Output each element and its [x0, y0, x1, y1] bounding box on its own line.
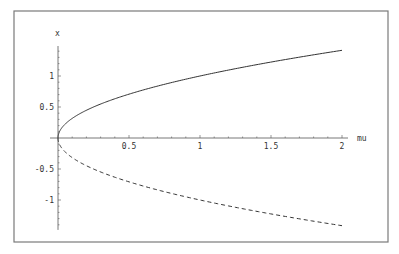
y-tick-label: -1 [44, 196, 54, 205]
x-axis-label: mu [357, 134, 367, 143]
chart-frame [14, 11, 388, 242]
y-tick-label: 1 [49, 72, 54, 81]
y-tick-label: 0.5 [40, 103, 55, 112]
x-tick-label: 1.5 [264, 142, 279, 151]
x-tick-label: 2 [340, 142, 345, 151]
y-axis-label: x [55, 29, 60, 38]
y-tick-label: -0.5 [35, 165, 54, 174]
x-tick-label: 0.5 [122, 142, 137, 151]
bifurcation-chart: 0.511.5210.5-0.5-1 mu x [0, 0, 399, 254]
x-tick-label: 1 [198, 142, 203, 151]
